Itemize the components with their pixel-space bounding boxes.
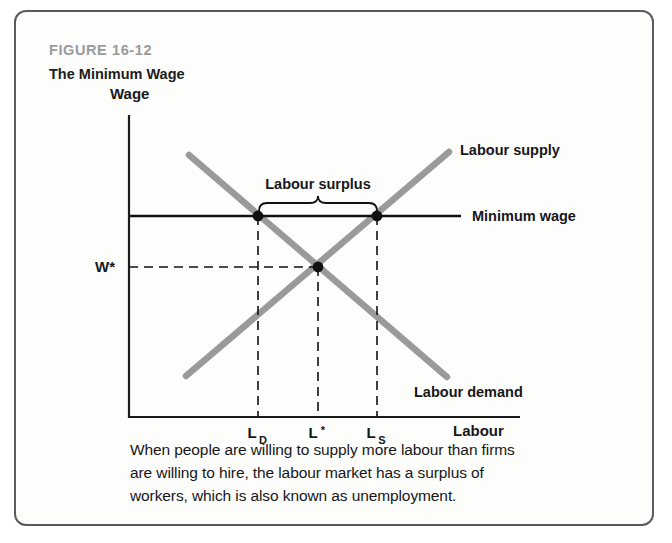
caption-line-3: workers, which is also known as unemploy… — [130, 487, 456, 505]
x-tick-ld-base: L — [247, 424, 256, 441]
labour-surplus-brace — [259, 196, 377, 211]
x-tick-lstar: L * — [308, 424, 325, 441]
labour-demand-label: Labour demand — [414, 384, 523, 400]
marker-supply-at-minimum-wage — [372, 211, 383, 222]
caption-line-1: When people are willing to supply more l… — [130, 441, 515, 459]
x-tick-lstar-base: L — [308, 424, 317, 441]
figure-card: FIGURE 16-12 The Minimum Wage Wage Labou… — [14, 10, 654, 526]
x-tick-lstar-sub: * — [321, 424, 326, 436]
x-axis-label: Labour — [453, 422, 504, 439]
minimum-wage-label: Minimum wage — [472, 208, 576, 224]
equilibrium-wage-tick-label: W* — [95, 258, 115, 275]
labour-surplus-label: Labour surplus — [265, 176, 371, 192]
caption-line-2: are willing to hire, the labour market h… — [130, 464, 484, 482]
marker-demand-at-minimum-wage — [253, 211, 264, 222]
x-tick-ls-base: L — [366, 424, 375, 441]
labour-supply-label: Labour supply — [460, 142, 560, 158]
y-axis-label: Wage — [110, 85, 149, 102]
marker-equilibrium — [313, 262, 324, 273]
